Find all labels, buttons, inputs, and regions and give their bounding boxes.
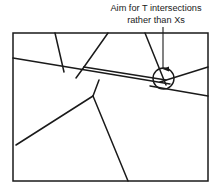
top-edge-v-left-arm <box>84 33 108 67</box>
t-hub-to-bottom-left <box>16 96 93 145</box>
long-diagonal-left-to-circle <box>13 58 170 84</box>
annotation-line-2: rather than Xs <box>127 15 185 25</box>
annotation-line-1: Aim for T intersections <box>110 3 201 13</box>
diagram-canvas: Aim for T intersections rather than Xs <box>0 0 219 193</box>
t-hub-to-bottom-edge <box>93 96 128 181</box>
diagram-figure: Aim for T intersections rather than Xs <box>0 0 219 193</box>
partition-lines <box>13 33 208 181</box>
t-hub-stem-to-ridge <box>93 80 99 96</box>
diagram-border <box>13 33 208 181</box>
